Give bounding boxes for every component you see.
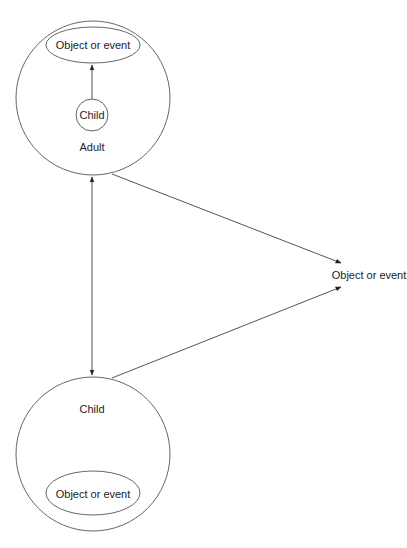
child-object-label: Object or event (56, 489, 131, 500)
adult-to-object-arrow (112, 174, 341, 263)
child-to-object-arrow (112, 287, 341, 378)
child-label: Child (79, 404, 104, 415)
adult-label: Adult (79, 142, 104, 153)
adult-inner-child-label: Child (79, 110, 104, 121)
adult-object-label: Object or event (56, 40, 131, 51)
child-circle (16, 377, 170, 531)
external-object-label: Object or event (332, 270, 407, 281)
